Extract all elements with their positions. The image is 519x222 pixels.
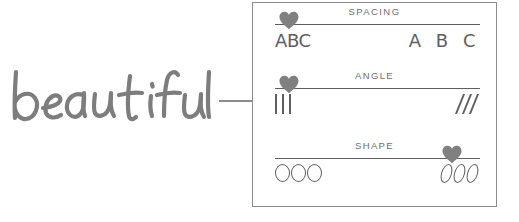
slider-track-spacing[interactable] — [275, 24, 480, 25]
wordmark-beautiful — [8, 62, 213, 138]
heart-icon[interactable] — [279, 75, 300, 94]
heart-icon-glyph — [279, 11, 300, 30]
heart-icon[interactable] — [279, 11, 300, 30]
preview-bars-slanted — [459, 94, 480, 116]
heart-icon-glyph — [279, 75, 300, 94]
slider-preview-right-shape — [441, 164, 480, 186]
connector-line — [219, 100, 253, 102]
slider-preview-right-spacing: A B C — [409, 30, 480, 53]
slider-panel: SPACING ABC A B C ANGLE SHAPE — [252, 2, 497, 207]
preview-rings-round — [275, 164, 323, 186]
slider-preview-left-angle — [275, 94, 296, 116]
preview-rings-narrow — [441, 164, 480, 186]
preview-text-tight: ABC — [275, 30, 311, 51]
heart-icon[interactable] — [442, 145, 463, 164]
slider-row-angle[interactable]: ANGLE — [253, 69, 496, 133]
slider-row-spacing[interactable]: SPACING ABC A B C — [253, 5, 496, 69]
preview-text-wide: A B C — [409, 30, 480, 51]
slider-preview-left-spacing: ABC — [275, 30, 311, 53]
preview-bars-upright — [275, 94, 296, 116]
slider-row-shape[interactable]: SHAPE — [253, 139, 496, 203]
slider-track-angle[interactable] — [275, 88, 480, 89]
slider-preview-right-angle — [459, 94, 480, 116]
heart-icon-glyph — [442, 145, 463, 164]
wordmark-glyphs — [8, 62, 213, 138]
slider-preview-left-shape — [275, 164, 323, 186]
